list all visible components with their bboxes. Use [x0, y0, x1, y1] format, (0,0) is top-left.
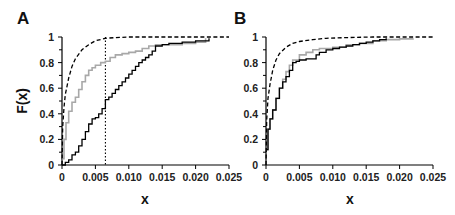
- y-tick-label-b: 0.8: [243, 57, 258, 69]
- series-empirical-black-b: [266, 38, 386, 149]
- x-tick-label-b: 0.015: [353, 171, 379, 183]
- marks-b: [266, 37, 433, 165]
- y-tick-label-a: 0.6: [39, 82, 54, 94]
- y-axis-title-a: F(x): [14, 88, 30, 114]
- x-tick-label-b: 0: [263, 171, 269, 183]
- y-tick-label-b: 0: [252, 159, 258, 171]
- panel-label-b: B: [234, 9, 246, 28]
- series-empirical-black-a: [62, 38, 209, 165]
- series-empirical-gray-a: [62, 38, 206, 158]
- x-axis-title-a: x: [141, 191, 149, 207]
- panel-label-a: A: [17, 9, 29, 28]
- marks-a: [62, 37, 229, 165]
- y-tick-label-b: 0.4: [243, 108, 258, 120]
- panel-b: B x 00.20.40.60.8100.0050.0100.0150.0200…: [234, 9, 446, 207]
- axes-b: 00.20.40.60.8100.0050.0100.0150.0200.025: [243, 31, 446, 183]
- y-tick-label-b: 0.6: [243, 82, 258, 94]
- x-axis-title-b: x: [346, 191, 354, 207]
- y-tick-label-a: 0: [48, 159, 54, 171]
- figure: A F(x) x 00.20.40.60.8100.0050.0100.0150…: [0, 0, 455, 215]
- y-tick-label-b: 0.2: [243, 133, 258, 145]
- x-tick-label-a: 0.005: [82, 171, 108, 183]
- x-tick-label-a: 0.025: [216, 171, 242, 183]
- y-tick-label-a: 0.2: [39, 133, 54, 145]
- y-tick-label-b: 1: [252, 31, 258, 43]
- x-tick-label-b: 0.020: [386, 171, 412, 183]
- x-tick-label-b: 0.010: [320, 171, 346, 183]
- x-tick-label-b: 0.005: [286, 171, 312, 183]
- series-theoretical-a: [62, 37, 229, 165]
- y-tick-label-a: 0.4: [39, 108, 54, 120]
- x-tick-label-a: 0.020: [182, 171, 208, 183]
- x-tick-label-a: 0: [59, 171, 65, 183]
- y-tick-label-a: 1: [48, 31, 54, 43]
- series-theoretical-b: [266, 37, 433, 165]
- series-empirical-gray-b: [266, 38, 413, 149]
- x-tick-label-b: 0.025: [420, 171, 446, 183]
- y-tick-label-a: 0.8: [39, 57, 54, 69]
- x-tick-label-a: 0.015: [149, 171, 175, 183]
- panel-a: A F(x) x 00.20.40.60.8100.0050.0100.0150…: [14, 9, 242, 207]
- x-tick-label-a: 0.010: [116, 171, 142, 183]
